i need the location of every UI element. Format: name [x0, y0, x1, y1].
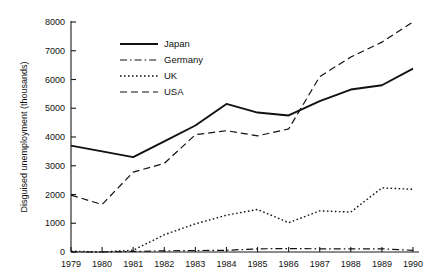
x-axis-tick-label: 1980 — [92, 259, 112, 269]
y-axis-tick-label: 5000 — [45, 103, 65, 113]
legend-label-uk: UK — [164, 70, 178, 81]
x-axis-tick-label: 1986 — [279, 259, 299, 269]
legend-label-germany: Germany — [164, 54, 203, 65]
y-axis-tick-label: 1000 — [45, 218, 65, 228]
y-axis-tick-label: 6000 — [45, 75, 65, 85]
y-axis-tick-label: 0 — [60, 247, 65, 257]
series-line-uk — [71, 188, 413, 252]
x-axis-tick-label: 1989 — [372, 259, 392, 269]
x-axis-tick-label: 1981 — [123, 259, 143, 269]
chart-canvas: 0100020003000400050006000700080001979198… — [0, 0, 429, 279]
y-axis-title: Disguised unemployment (thousands) — [19, 61, 29, 212]
x-axis-tick-label: 1985 — [248, 259, 268, 269]
x-axis-tick-label: 1984 — [216, 259, 236, 269]
y-axis-tick-label: 3000 — [45, 161, 65, 171]
x-axis-tick-label: 1983 — [185, 259, 205, 269]
series-line-usa — [71, 22, 413, 205]
x-axis-tick-label: 1987 — [310, 259, 330, 269]
legend-label-usa: USA — [164, 86, 184, 97]
y-axis-tick-label: 8000 — [45, 17, 65, 27]
line-chart: 0100020003000400050006000700080001979198… — [0, 0, 429, 279]
x-axis-tick-label: 1988 — [341, 259, 361, 269]
legend-label-japan: Japan — [164, 38, 190, 49]
y-axis-tick-label: 7000 — [45, 46, 65, 56]
x-axis-tick-label: 1979 — [61, 259, 81, 269]
x-axis-tick-label: 1990 — [403, 259, 423, 269]
chart-legend: JapanGermanyUKUSA — [120, 38, 203, 97]
series-line-japan — [71, 69, 413, 158]
y-axis-tick-label: 2000 — [45, 190, 65, 200]
x-axis-tick-label: 1982 — [154, 259, 174, 269]
y-axis-tick-label: 4000 — [45, 132, 65, 142]
